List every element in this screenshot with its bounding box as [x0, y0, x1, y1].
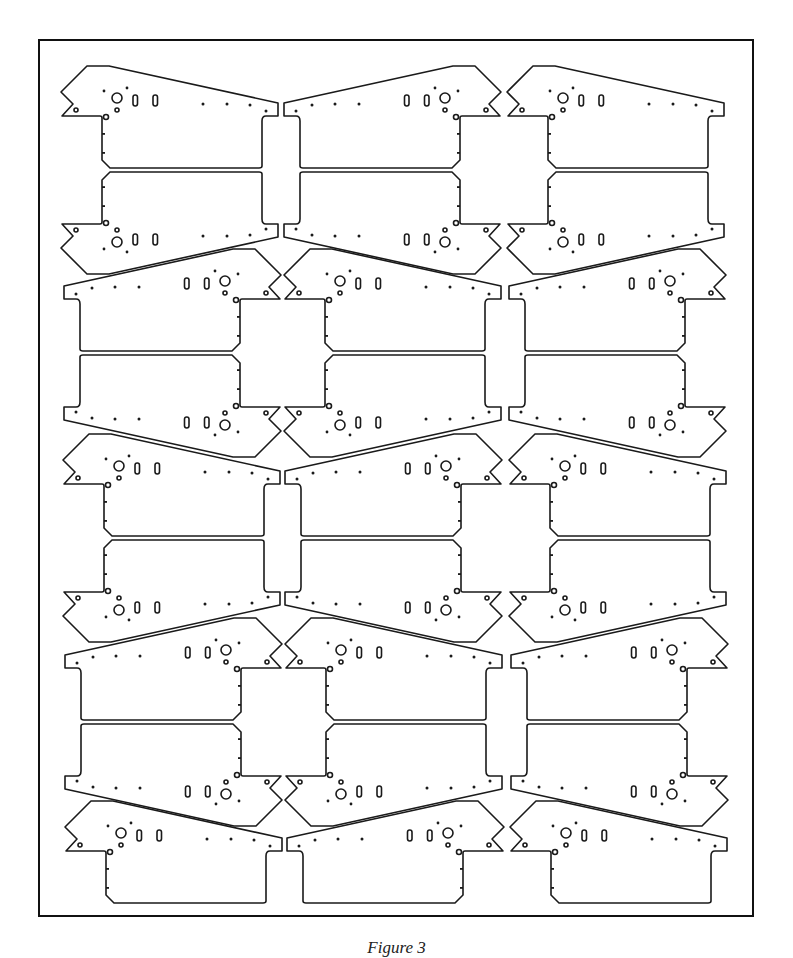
chassis-plate — [285, 434, 502, 536]
chassis-plate — [284, 355, 501, 457]
chassis-plate — [287, 801, 504, 903]
chassis-plate — [65, 618, 282, 720]
chassis-plate — [511, 724, 728, 826]
chassis-plate — [63, 540, 280, 642]
chassis-plate — [285, 724, 502, 826]
chassis-plate — [65, 724, 282, 826]
chassis-plate — [61, 66, 278, 168]
chassis-plate — [507, 66, 724, 168]
chassis-plate — [510, 801, 727, 903]
chassis-plate — [285, 618, 502, 720]
chassis-plate — [284, 66, 501, 168]
figure-caption: Figure 3 — [0, 938, 793, 958]
plates-layer — [61, 66, 728, 903]
chassis-plate — [285, 540, 502, 642]
chassis-plate — [509, 249, 726, 351]
chassis-plate — [65, 801, 282, 903]
chassis-plate — [64, 249, 281, 351]
chassis-plate — [61, 172, 278, 274]
chassis-plate — [284, 172, 501, 274]
chassis-plate — [509, 355, 726, 457]
chassis-plate — [284, 249, 501, 351]
chassis-plate — [63, 434, 280, 536]
chassis-plate — [507, 172, 724, 274]
chassis-plate — [509, 540, 726, 642]
chassis-plate — [511, 618, 728, 720]
chassis-plate — [64, 355, 281, 457]
chassis-plate — [509, 434, 726, 536]
